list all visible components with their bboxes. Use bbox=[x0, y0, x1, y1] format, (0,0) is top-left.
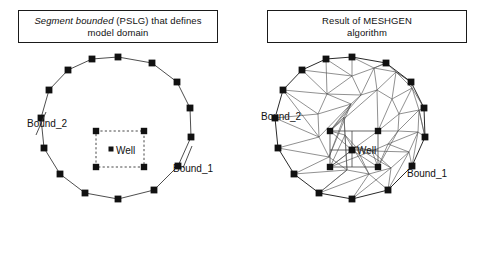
boundary-vertex bbox=[349, 54, 356, 61]
figure-two-panel-meshgen: Segment bounded (PSLG) that defines mode… bbox=[0, 0, 497, 253]
boundary-vertex bbox=[323, 56, 330, 63]
well-zone-corner bbox=[327, 164, 333, 170]
well-zone-corner bbox=[375, 164, 381, 170]
boundary-vertex bbox=[57, 171, 64, 178]
boundary-vertex bbox=[65, 67, 72, 74]
mesh-triangulation-edges bbox=[275, 57, 425, 199]
boundary-vertex bbox=[280, 87, 287, 94]
boundary-vertex bbox=[383, 60, 390, 67]
boundary-vertex bbox=[316, 190, 323, 197]
bound-left-label: Bound_2 bbox=[27, 118, 67, 129]
well-label: Well bbox=[116, 145, 135, 156]
boundary-vertex bbox=[46, 87, 53, 94]
boundary-vertex bbox=[408, 79, 415, 86]
boundary-vertex bbox=[82, 190, 89, 197]
boundary-vertex bbox=[299, 67, 306, 74]
well-zone-corner bbox=[141, 128, 147, 134]
well-zone-corner bbox=[93, 128, 99, 134]
boundary-vertex bbox=[275, 145, 282, 152]
boundary-vertex bbox=[188, 134, 195, 141]
well-point-marker bbox=[109, 147, 114, 152]
boundary-vertex bbox=[115, 196, 122, 203]
boundary-vertex bbox=[422, 134, 429, 141]
boundary-vertex bbox=[385, 187, 392, 194]
bound-right-label: Bound_1 bbox=[173, 163, 213, 174]
well-zone-corner bbox=[141, 164, 147, 170]
boundary-vertex bbox=[149, 60, 156, 67]
boundary-vertex bbox=[187, 105, 194, 112]
well-zone-corner bbox=[327, 128, 333, 134]
boundary-vertex bbox=[151, 187, 158, 194]
boundary-vertex bbox=[174, 79, 181, 86]
boundary-vertex bbox=[421, 105, 428, 112]
panel-meshgen-result: Result of MESHGEN algorithm bbox=[249, 0, 497, 253]
boundary-vertex bbox=[41, 145, 48, 152]
bound-left-label: Bound_2 bbox=[261, 111, 301, 122]
panel-pslg-domain: Segment bounded (PSLG) that defines mode… bbox=[0, 0, 248, 253]
boundary-vertex bbox=[349, 196, 356, 203]
pslg-drawing: Well Bound_2 Bound_1 bbox=[0, 0, 248, 253]
boundary-vertex bbox=[89, 56, 96, 63]
meshgen-drawing: Well Bound_2 Bound_1 bbox=[249, 0, 497, 253]
boundary-vertex bbox=[115, 54, 122, 61]
well-zone-corner bbox=[93, 164, 99, 170]
well-label: Well bbox=[357, 145, 376, 156]
well-point-marker bbox=[349, 147, 356, 154]
bound-right-label: Bound_1 bbox=[407, 168, 447, 179]
well-zone-corner bbox=[375, 128, 381, 134]
boundary-vertex bbox=[291, 171, 298, 178]
